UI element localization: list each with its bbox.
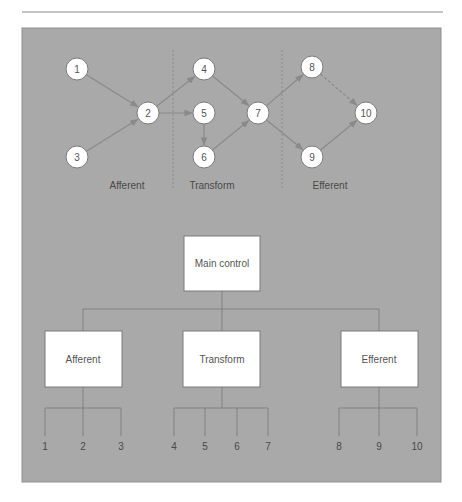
- leaf-9: 9: [376, 441, 382, 452]
- leaf-1: 1: [42, 441, 48, 452]
- afferent-module-box: Afferent: [45, 331, 122, 387]
- node-label: 7: [255, 108, 261, 119]
- afferent-module-label: Afferent: [66, 354, 101, 365]
- transform-analysis-diagram: 12345678910 AfferentTransformEfferent Ma…: [0, 0, 462, 502]
- node-label: 9: [309, 152, 315, 163]
- transform-module-box: Transform: [183, 331, 260, 387]
- flow-node-9: 9: [301, 146, 323, 168]
- efferent-module-box: Efferent: [341, 331, 418, 387]
- leaf-4: 4: [171, 441, 177, 452]
- node-label: 10: [360, 108, 372, 119]
- leaf-2: 2: [80, 441, 86, 452]
- region-label-efferent: Efferent: [313, 180, 348, 191]
- main-control-label: Main control: [195, 258, 249, 269]
- efferent-module-label: Efferent: [362, 354, 397, 365]
- node-label: 4: [201, 64, 207, 75]
- flow-node-6: 6: [193, 146, 215, 168]
- region-label-afferent: Afferent: [110, 180, 145, 191]
- transform-module-label: Transform: [199, 354, 244, 365]
- main-control-box: Main control: [184, 236, 260, 291]
- leaf-3: 3: [118, 441, 124, 452]
- flow-node-5: 5: [193, 102, 215, 124]
- leaf-8: 8: [336, 441, 342, 452]
- leaf-5: 5: [202, 441, 208, 452]
- node-label: 3: [74, 152, 80, 163]
- flow-node-4: 4: [193, 58, 215, 80]
- leaf-10: 10: [411, 441, 423, 452]
- flow-node-8: 8: [301, 56, 323, 78]
- node-label: 2: [145, 108, 151, 119]
- leaf-7: 7: [265, 441, 271, 452]
- flow-node-10: 10: [355, 102, 377, 124]
- region-label-transform: Transform: [189, 180, 234, 191]
- leaf-6: 6: [234, 441, 240, 452]
- flow-node-1: 1: [66, 58, 88, 80]
- flow-node-2: 2: [137, 102, 159, 124]
- node-label: 8: [309, 62, 315, 73]
- node-label: 1: [74, 64, 80, 75]
- node-label: 5: [201, 108, 207, 119]
- flow-node-7: 7: [247, 102, 269, 124]
- node-label: 6: [201, 152, 207, 163]
- flow-node-3: 3: [66, 146, 88, 168]
